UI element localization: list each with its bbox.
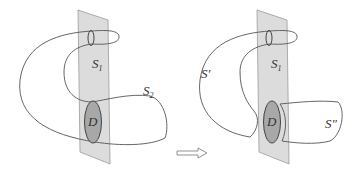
left-label-s2: S2 <box>143 83 154 100</box>
right-panel: S′ S1 S″ D <box>200 10 343 164</box>
right-arrow-icon <box>177 148 207 158</box>
right-label-d: D <box>266 114 277 129</box>
left-label-d: D <box>87 114 98 129</box>
surgery-diagram: S1 S2 D S′ S1 S″ D <box>0 0 354 174</box>
left-panel: S1 S2 D <box>20 10 167 164</box>
right-label-s-double-prime: S″ <box>325 116 338 131</box>
transition-arrow <box>177 148 207 158</box>
right-label-s-prime: S′ <box>201 66 211 81</box>
